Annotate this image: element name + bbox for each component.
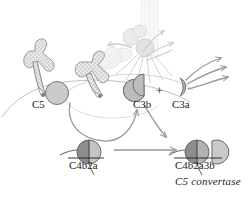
label-c5: C5	[32, 99, 45, 110]
label-c4b2a3b: C4b2a3b	[175, 160, 215, 171]
c5-sphere	[46, 82, 69, 105]
label-c3b: C3b	[133, 99, 151, 110]
label-c5-convertase: C5 convertase	[175, 176, 241, 187]
label-c4b2a: C4b2a	[69, 160, 98, 171]
label-plus: +	[156, 85, 163, 97]
label-c3a: C3a	[172, 99, 190, 110]
